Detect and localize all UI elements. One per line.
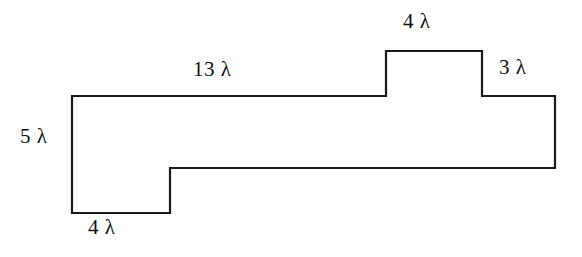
dimension-label-top-width: 13 λ xyxy=(193,58,231,80)
dimension-label-bottom-width: 4 λ xyxy=(88,216,115,238)
stepped-polygon-outline xyxy=(72,51,555,213)
dimension-label-right-width: 3 λ xyxy=(499,56,526,78)
dimension-label-bump-width: 4 λ xyxy=(403,10,430,32)
figure-container: 13 λ 4 λ 3 λ 5 λ 4 λ xyxy=(0,0,582,257)
dimension-label-left-height: 5 λ xyxy=(20,125,47,147)
